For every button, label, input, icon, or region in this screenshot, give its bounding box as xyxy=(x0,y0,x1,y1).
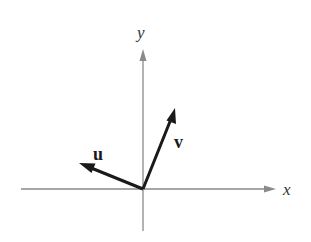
y-axis-arrowhead-icon xyxy=(140,49,147,61)
vector-u-arrowhead-icon xyxy=(79,163,96,173)
y-axis-label: y xyxy=(135,23,145,42)
vector-u xyxy=(79,163,143,189)
y-axis xyxy=(140,49,147,231)
vector-v xyxy=(143,108,176,189)
vector-diagram: x y u v xyxy=(0,0,311,242)
vector-v-arrowhead-icon xyxy=(167,108,177,124)
vector-u-label: u xyxy=(93,144,103,164)
vector-v-label: v xyxy=(174,132,183,152)
x-axis-arrowhead-icon xyxy=(264,186,276,193)
x-axis-label: x xyxy=(282,180,291,199)
x-axis xyxy=(21,186,276,193)
